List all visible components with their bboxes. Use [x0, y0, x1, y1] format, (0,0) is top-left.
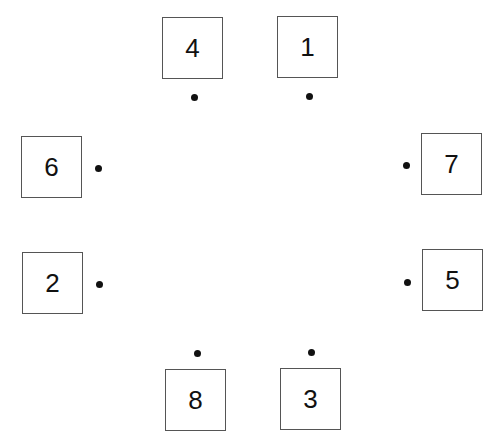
numbered-box-3: 3 — [280, 368, 341, 430]
dot-marker — [96, 281, 103, 288]
numbered-box-6: 6 — [21, 136, 82, 198]
dot-marker — [403, 162, 410, 169]
dot-marker — [306, 93, 313, 100]
dot-marker — [308, 349, 315, 356]
numbered-box-1: 1 — [277, 16, 338, 78]
numbered-box-8: 8 — [165, 369, 226, 431]
dot-marker — [95, 165, 102, 172]
dot-marker — [191, 94, 198, 101]
box-label: 5 — [445, 265, 459, 296]
dot-marker — [404, 279, 411, 286]
dot-marker — [194, 350, 201, 357]
numbered-box-7: 7 — [421, 133, 482, 195]
numbered-box-4: 4 — [162, 17, 223, 79]
box-label: 6 — [44, 152, 58, 183]
box-label: 2 — [45, 268, 59, 299]
box-label: 3 — [303, 384, 317, 415]
numbered-box-2: 2 — [22, 252, 83, 314]
box-label: 7 — [444, 149, 458, 180]
box-label: 8 — [188, 385, 202, 416]
box-label: 4 — [185, 33, 199, 64]
box-label: 1 — [300, 32, 314, 63]
numbered-box-5: 5 — [422, 249, 483, 311]
